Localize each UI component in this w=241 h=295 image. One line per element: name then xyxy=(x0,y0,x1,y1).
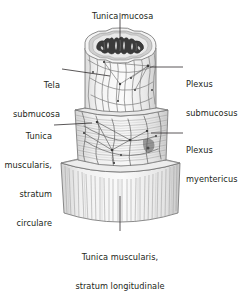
label-plexus-submucosus: Plexus submucosus xyxy=(186,61,241,128)
label-plexus-submucosus-line-1: Plexus xyxy=(186,80,241,90)
label-plexus-myentericus-line-1: Plexus xyxy=(186,146,241,156)
label-tela-submucosa-line-1: Tela xyxy=(0,81,60,91)
label-tunica-muscularis-circulare: Tunica muscularis, stratum circulare xyxy=(0,113,52,238)
label-circulare-line-3: stratum xyxy=(0,190,52,200)
mucosa-lumen xyxy=(85,28,156,63)
label-tunica-mucosa-line-1: Tunica mucosa xyxy=(92,11,153,21)
label-longitudinale-line-1: Tunica muscularis, xyxy=(35,253,205,263)
label-plexus-myentericus: Plexus myentericus xyxy=(186,127,241,194)
label-plexus-myentericus-line-2: myentericus xyxy=(186,175,241,185)
label-tunica-mucosa: Tunica mucosa xyxy=(60,2,180,21)
label-plexus-submucosus-line-2: submucosus xyxy=(186,109,241,119)
label-tunica-muscularis-longitudinale: Tunica muscularis, stratum longitudinale xyxy=(35,234,205,295)
label-longitudinale-line-2: stratum longitudinale xyxy=(35,282,205,292)
label-circulare-line-2: muscularis, xyxy=(0,161,52,171)
circular-muscle-layer xyxy=(75,104,168,169)
label-circulare-line-4: circulare xyxy=(0,219,52,229)
label-circulare-line-1: Tunica xyxy=(0,132,52,142)
